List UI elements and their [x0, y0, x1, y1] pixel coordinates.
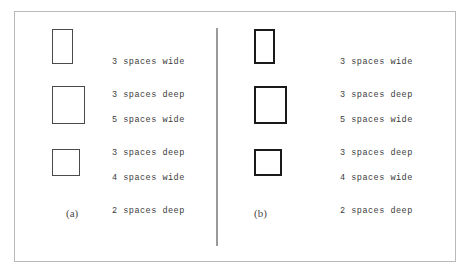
rectangle-5x3	[52, 86, 85, 124]
shape-slot	[52, 27, 110, 75]
caption-line-width: 4 spaces wide	[340, 173, 413, 184]
rectangle-5x3	[254, 86, 287, 124]
panel-divider	[216, 28, 218, 246]
caption-line-depth: 2 spaces deep	[112, 206, 185, 217]
caption-line-width: 5 spaces wide	[112, 115, 185, 126]
shape-row: 4 spaces wide 2 spaces deep	[232, 143, 456, 191]
shape-slot	[52, 143, 110, 191]
caption: 4 spaces wide 2 spaces deep	[112, 151, 185, 239]
caption-line-width: 3 spaces wide	[112, 57, 185, 68]
caption-line-depth: 2 spaces deep	[340, 206, 413, 217]
caption: 4 spaces wide 2 spaces deep	[340, 151, 413, 239]
shape-slot	[52, 85, 110, 133]
shape-row: 4 spaces wide 2 spaces deep	[14, 143, 216, 191]
panel-a: 3 spaces wide 3 spaces deep 5 spaces wid…	[14, 11, 216, 262]
shape-row: 3 spaces wide 3 spaces deep	[232, 27, 456, 75]
shape-slot	[254, 27, 312, 75]
panel-label-a: (a)	[66, 207, 78, 219]
rectangle-3x3	[52, 29, 73, 64]
caption-line-width: 5 spaces wide	[340, 115, 413, 126]
shape-row: 5 spaces wide 3 spaces deep	[232, 85, 456, 133]
rectangle-4x2	[52, 149, 80, 176]
caption-line-width: 3 spaces wide	[340, 57, 413, 68]
shape-slot	[254, 143, 312, 191]
rectangle-4x2	[254, 149, 282, 176]
shape-row: 5 spaces wide 3 spaces deep	[14, 85, 216, 133]
figure-root: 3 spaces wide 3 spaces deep 5 spaces wid…	[0, 0, 473, 276]
caption-line-width: 4 spaces wide	[112, 173, 185, 184]
panel-b: 3 spaces wide 3 spaces deep 5 spaces wid…	[232, 11, 456, 262]
shape-row: 3 spaces wide 3 spaces deep	[14, 27, 216, 75]
panel-label-b: (b)	[254, 207, 267, 219]
shape-slot	[254, 85, 312, 133]
rectangle-3x3	[254, 29, 275, 64]
